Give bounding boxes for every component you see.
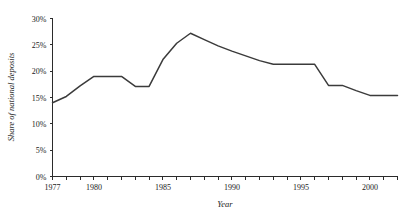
x-tick-label: 1990 — [224, 183, 240, 192]
x-tick-label: 1980 — [86, 183, 102, 192]
y-tick-label: 10% — [32, 120, 47, 129]
y-tick-label: 15% — [32, 94, 47, 103]
x-tick-label: 1985 — [155, 183, 171, 192]
x-tick-label: 1977 — [45, 183, 61, 192]
y-tick-label: 5% — [36, 146, 47, 155]
y-axis-title: Share of national deposits — [6, 52, 16, 141]
x-tick-label: 2000 — [362, 183, 378, 192]
x-axis-title: Year — [217, 199, 233, 209]
y-tick-label: 0% — [36, 173, 47, 182]
y-tick-label: 25% — [32, 41, 47, 50]
line-chart: 0%5%10%15%20%25%30% 19771980198519901995… — [0, 0, 409, 215]
x-tick-label: 1995 — [293, 183, 309, 192]
y-tick-label: 20% — [32, 67, 47, 76]
plot-background — [0, 0, 409, 215]
y-tick-label: 30% — [32, 15, 47, 24]
chart-canvas: 0%5%10%15%20%25%30% 19771980198519901995… — [0, 0, 409, 215]
